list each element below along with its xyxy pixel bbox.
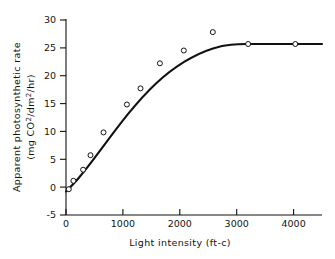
y-tick-label: 30 bbox=[44, 14, 56, 25]
y-axis-title-line2: (mg CO2/dm2/hr) bbox=[25, 74, 36, 160]
data-marker bbox=[293, 42, 298, 47]
y-tick-label: 25 bbox=[44, 42, 56, 53]
data-marker bbox=[81, 167, 86, 172]
x-tick-label: 1000 bbox=[111, 218, 135, 229]
data-marker bbox=[181, 48, 186, 53]
x-tick-label: 0 bbox=[63, 218, 69, 229]
x-axis-title: Light intensity (ft-c) bbox=[129, 237, 231, 248]
x-tick-label: 4000 bbox=[282, 218, 306, 229]
data-marker bbox=[101, 130, 106, 135]
photosynthesis-light-response-chart: -5 0 5 10 15 20 25 30 0 1000 2000 3000 4… bbox=[0, 0, 335, 259]
data-marker bbox=[138, 86, 143, 91]
data-marker bbox=[157, 61, 162, 66]
data-marker bbox=[124, 102, 129, 107]
y-axis-title-line1: Apparent photosynthetic rate bbox=[11, 42, 22, 192]
x-tick-label: 3000 bbox=[225, 218, 249, 229]
y-tick-label: 10 bbox=[44, 126, 56, 137]
y-tick-label: 5 bbox=[50, 154, 56, 165]
data-marker bbox=[71, 178, 76, 183]
data-marker bbox=[210, 30, 215, 35]
x-tick-label: 2000 bbox=[168, 218, 192, 229]
y-tick-label: 0 bbox=[50, 182, 56, 193]
data-marker bbox=[246, 42, 251, 47]
chart-figure: -5 0 5 10 15 20 25 30 0 1000 2000 3000 4… bbox=[0, 0, 335, 259]
data-marker bbox=[88, 153, 93, 158]
y-tick-label: -5 bbox=[47, 209, 56, 220]
y-tick-label: 15 bbox=[44, 98, 56, 109]
data-marker bbox=[66, 187, 71, 192]
y-tick-label: 20 bbox=[44, 70, 56, 81]
